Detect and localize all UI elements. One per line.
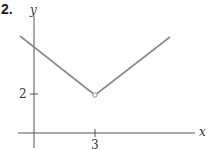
- graph: y x 2 3: [0, 0, 209, 150]
- left-branch-line: [20, 36, 93, 94]
- y-axis-label: y: [29, 3, 37, 17]
- right-branch-line: [97, 37, 170, 94]
- x-tick-label-3: 3: [91, 138, 99, 150]
- y-tick-label-2: 2: [19, 87, 27, 101]
- x-axis-label: x: [199, 125, 206, 139]
- open-point-vertex: [93, 93, 97, 97]
